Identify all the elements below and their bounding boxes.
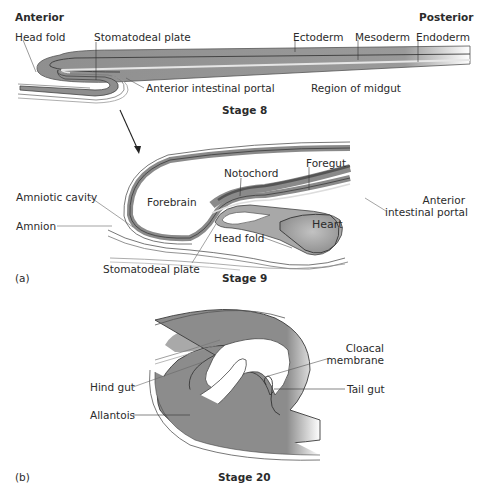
stage8-embryo xyxy=(18,40,470,154)
panel-tag-a: (a) xyxy=(15,272,30,284)
label-cloacal-membrane-line2: membrane xyxy=(300,354,384,366)
caption-stage-20: Stage 20 xyxy=(218,471,271,483)
label-head-fold-s8: Head fold xyxy=(15,31,66,43)
label-mesoderm: Mesoderm xyxy=(355,31,410,43)
orientation-anterior: Anterior xyxy=(15,11,64,23)
label-notochord: Notochord xyxy=(224,167,278,179)
label-cloacal-membrane-line1: Cloacal xyxy=(300,342,384,354)
label-cloacal-membrane: Cloacal membrane xyxy=(300,342,384,366)
label-tail-gut: Tail gut xyxy=(347,383,385,395)
stage20-embryo xyxy=(133,309,345,460)
label-stomatodeal-plate-s9: Stomatodeal plate xyxy=(103,263,200,275)
orientation-posterior: Posterior xyxy=(419,11,473,23)
label-stomatodeal-plate-s8: Stomatodeal plate xyxy=(94,31,191,43)
label-hind-gut: Hind gut xyxy=(90,381,135,393)
label-region-of-midgut: Region of midgut xyxy=(311,82,401,94)
label-head-fold-s9: Head fold xyxy=(214,232,265,244)
caption-stage-9: Stage 9 xyxy=(222,272,267,284)
label-allantois: Allantois xyxy=(90,409,135,421)
label-amniotic-cavity: Amniotic cavity xyxy=(16,191,97,203)
label-anterior-intestinal-portal-line1: Anterior xyxy=(385,194,465,206)
label-anterior-intestinal-portal-s9: Anterior intestinal portal xyxy=(385,194,465,218)
label-forebrain: Forebrain xyxy=(147,196,197,208)
label-anterior-intestinal-portal-line2: intestinal portal xyxy=(385,206,465,218)
label-endoderm: Endoderm xyxy=(416,31,470,43)
caption-stage-8: Stage 8 xyxy=(222,104,267,116)
label-amnion: Amnion xyxy=(16,220,56,232)
label-anterior-intestinal-portal-s8: Anterior intestinal portal xyxy=(146,82,275,94)
label-ectoderm: Ectoderm xyxy=(293,31,343,43)
label-foregut: Foregut xyxy=(306,157,346,169)
panel-tag-b: (b) xyxy=(15,471,30,483)
label-heart: Heart xyxy=(312,219,343,232)
